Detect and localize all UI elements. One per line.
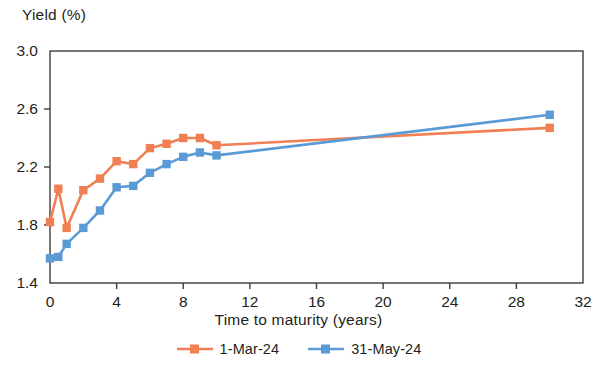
data-point-marker: [112, 183, 120, 191]
yield-curve-chart: Yield (%) Time to maturity (years) 1-Mar…: [0, 0, 597, 367]
x-axis-tick-label: 0: [30, 294, 70, 310]
data-point-marker: [62, 224, 70, 232]
data-point-marker: [545, 124, 553, 132]
x-axis-tick-label: 32: [563, 294, 597, 310]
legend-key-series-1: [176, 342, 214, 356]
data-point-marker: [179, 153, 187, 161]
series-line: [50, 128, 550, 228]
data-point-marker: [112, 157, 120, 165]
legend-label-series-1: 1-Mar-24: [220, 341, 280, 357]
x-axis-tick-label: 4: [97, 294, 137, 310]
data-point-marker: [96, 174, 104, 182]
data-point-marker: [129, 160, 137, 168]
data-point-marker: [54, 185, 62, 193]
data-point-marker: [545, 111, 553, 119]
data-point-marker: [46, 254, 54, 262]
data-point-marker: [212, 151, 220, 159]
data-point-marker: [212, 141, 220, 149]
y-axis-tick-label: 3.0: [0, 43, 38, 59]
data-point-marker: [196, 134, 204, 142]
data-point-marker: [162, 160, 170, 168]
legend-item-31-may-24[interactable]: 31-May-24: [307, 341, 421, 357]
legend-label-series-2: 31-May-24: [351, 341, 421, 357]
series-1: [46, 124, 554, 232]
chart-legend: 1-Mar-24 31-May-24: [0, 341, 597, 357]
y-axis-tick-label: 2.6: [0, 101, 38, 117]
x-axis-tick-label: 24: [430, 294, 470, 310]
data-point-marker: [79, 224, 87, 232]
x-axis-tick-label: 8: [163, 294, 203, 310]
data-point-marker: [146, 169, 154, 177]
data-point-marker: [129, 182, 137, 190]
x-axis-tick-label: 28: [496, 294, 536, 310]
data-point-marker: [196, 148, 204, 156]
data-point-marker: [54, 253, 62, 261]
x-axis-title: Time to maturity (years): [0, 311, 597, 329]
data-point-marker: [96, 206, 104, 214]
x-axis-tick-label: 20: [363, 294, 403, 310]
data-point-marker: [62, 240, 70, 248]
data-point-marker: [46, 218, 54, 226]
x-axis-tick-label: 16: [297, 294, 337, 310]
y-axis-tick-label: 1.4: [0, 275, 38, 291]
series-2: [46, 111, 554, 263]
data-point-marker: [146, 144, 154, 152]
legend-key-series-2: [307, 342, 345, 356]
data-point-marker: [79, 186, 87, 194]
legend-item-1-mar-24[interactable]: 1-Mar-24: [176, 341, 280, 357]
data-point-marker: [162, 140, 170, 148]
data-point-marker: [179, 134, 187, 142]
y-axis-tick-label: 1.8: [0, 217, 38, 233]
x-axis-tick-label: 12: [230, 294, 270, 310]
series-line: [50, 115, 550, 259]
y-axis-tick-label: 2.2: [0, 159, 38, 175]
